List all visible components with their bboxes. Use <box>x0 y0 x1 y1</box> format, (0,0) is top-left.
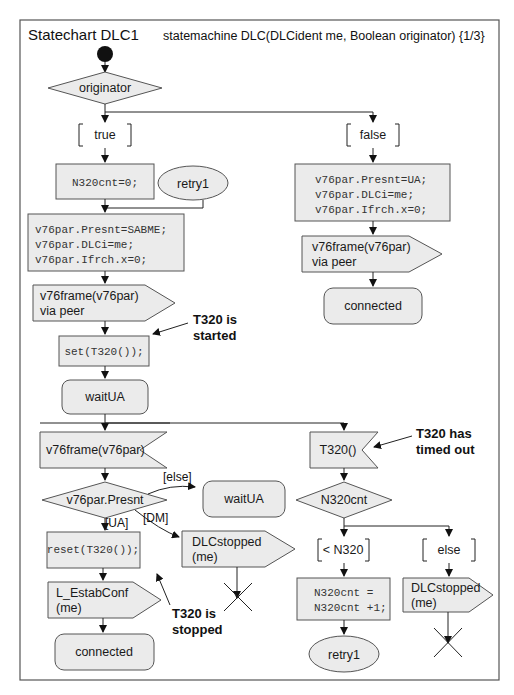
connector-retry1-bottom-label: retry1 <box>328 648 360 662</box>
output-dlcstopped-right-line1: DLCstopped <box>411 581 481 595</box>
output-v76frame-left-line2: via peer <box>40 304 84 318</box>
connector-retry1-top-label: retry1 <box>177 177 209 191</box>
task-init-counter-text: N320cnt=0; <box>72 177 138 189</box>
state-connected-left-label: connected <box>75 645 133 659</box>
note-t320-timed-out: T320 has <box>416 426 472 441</box>
output-v76frame-right-line1: v76frame(v76par) <box>312 240 411 254</box>
task-incr-line: N320cnt = <box>314 587 373 599</box>
guard-ua: [UA] <box>105 516 128 530</box>
output-estabconf-line1: L_EstabConf <box>56 586 129 600</box>
output-estabconf-line2: (me) <box>56 601 82 615</box>
task-sabme-line: v76par.Presnt=SABME; <box>35 224 167 236</box>
note-t320-stopped: stopped <box>172 622 223 637</box>
svg-text:< N320: < N320 <box>323 543 364 557</box>
task-set-timer-text: set(T320()); <box>64 346 143 358</box>
decision-n320cnt-label: N320cnt <box>321 493 368 507</box>
note-t320-timed-out: timed out <box>416 442 475 457</box>
svg-text:false: false <box>360 128 386 142</box>
statechart-diagram: Statechart DLC1 statemachine DLC(DLCiden… <box>0 0 514 695</box>
decision-presnt-label: v76par.Presnt <box>66 493 144 507</box>
note-t320-started: started <box>193 328 236 343</box>
task-sabme-line: v76par.DLCi=me; <box>35 239 134 251</box>
task-ua-line: v76par.Presnt=UA; <box>315 174 427 186</box>
output-dlcstopped-mid-line2: (me) <box>192 550 218 564</box>
svg-text:true: true <box>94 128 116 142</box>
diagram-title: Statechart DLC1 <box>28 26 139 43</box>
state-waitUA-label: waitUA <box>84 390 125 404</box>
state-waitUA-else-label: waitUA <box>223 492 264 506</box>
task-incr-line: N320cnt +1; <box>314 602 387 614</box>
decision-originator-label: originator <box>79 81 131 95</box>
note-t320-started: T320 is <box>193 312 237 327</box>
guard-dm: [DM] <box>143 511 168 525</box>
input-v76frame-label: v76frame(v76par) <box>46 443 145 457</box>
note-t320-stopped: T320 is <box>172 606 216 621</box>
task-ua-line: v76par.Ifrch.x=0; <box>315 204 427 216</box>
output-dlcstopped-right-line2: (me) <box>411 596 437 610</box>
task-ua-line: v76par.DLCi=me; <box>315 189 414 201</box>
start-node-icon <box>97 46 113 62</box>
input-timer-t320-label: T320() <box>320 443 357 457</box>
svg-text:else: else <box>438 543 461 557</box>
output-v76frame-left-line1: v76frame(v76par) <box>40 289 139 303</box>
statemachine-signature: statemachine DLC(DLCident me, Boolean or… <box>163 29 485 43</box>
output-v76frame-right-line2: via peer <box>312 255 356 269</box>
guard-else: [else] <box>163 470 192 484</box>
output-dlcstopped-mid-line1: DLCstopped <box>192 535 262 549</box>
state-connected-right-label: connected <box>344 299 402 313</box>
task-sabme-line: v76par.Ifrch.x=0; <box>35 254 147 266</box>
task-reset-timer-text: reset(T320()); <box>47 544 139 556</box>
